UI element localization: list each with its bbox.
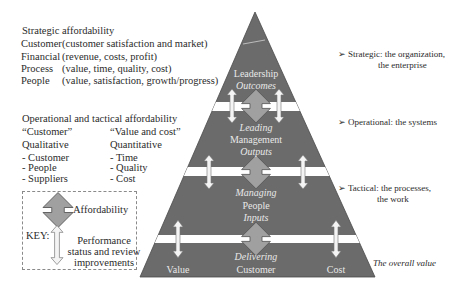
people-label: People [242,200,270,211]
operational-level-line: Operational: the systems [348,117,437,128]
operational-level-bullet: ➢ [338,117,346,128]
outcomes-label: Outcomes [236,80,276,91]
leading-label: Leading [239,122,273,133]
customer-label: Customer [237,264,277,275]
management-label: Management [230,134,282,145]
managing-label: Managing [234,187,276,198]
affordability-double-arrow-icon [43,193,73,228]
overall-value-label: The overall value [373,258,436,269]
tactical-level-line: the work [377,194,409,205]
delivering-label: Delivering [234,251,278,262]
strategic-level-line: the enterprise [378,60,427,71]
cost-label: Cost [327,264,346,275]
pyramid-diagram: Leadership Outcomes Leading Management O… [0,0,453,290]
inputs-label: Inputs [243,212,269,223]
value-label: Value [167,264,190,275]
tactical-level-bullet: ➢ [338,183,346,194]
outputs-label: Outputs [240,146,272,157]
strategic-level-line: Strategic: the organization, [348,49,445,60]
tactical-level-line: Tactical: the processes, [348,183,431,194]
strategic-level-bullet: ➢ [338,49,346,60]
leadership-label: Leadership [234,68,278,79]
performance-double-arrow-icon [51,225,63,264]
